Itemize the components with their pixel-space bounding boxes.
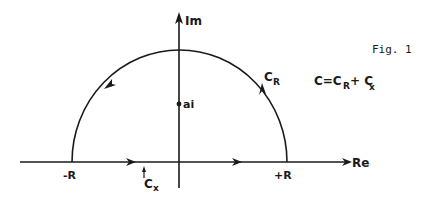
diagram-svg: ai Im Re -R +R C x C R C=C R + C x Fig. … <box>0 0 431 199</box>
segment-label-C: C <box>144 177 153 191</box>
arc-label-C: C <box>264 70 273 84</box>
figure-caption: Fig. 1 <box>372 43 412 56</box>
minus-R-label: -R <box>63 169 77 182</box>
equation-sub2: x <box>369 82 375 92</box>
imaginary-axis-label: Im <box>185 14 202 28</box>
equation-sub1: R <box>343 81 350 91</box>
plus-R-label: +R <box>274 169 292 182</box>
arc-label-sub: R <box>273 77 280 87</box>
cx-pointer-arrow-icon <box>142 166 146 172</box>
contour-diagram: ai Im Re -R +R C x C R C=C R + C x Fig. … <box>0 0 431 199</box>
pole-label: ai <box>183 98 194 111</box>
equation-lhs: C=C <box>314 74 342 88</box>
real-axis-label: Re <box>352 156 369 170</box>
segment-label-sub: x <box>153 183 159 193</box>
pole-point <box>177 102 182 107</box>
